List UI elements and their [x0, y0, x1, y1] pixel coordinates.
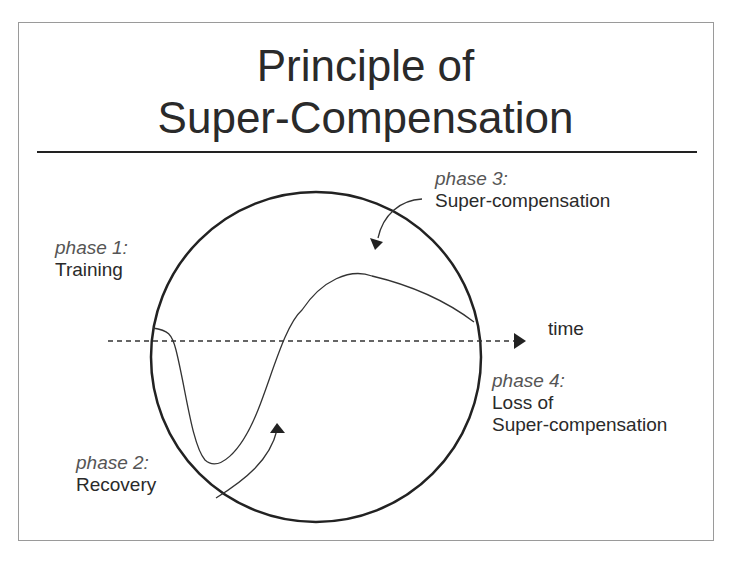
phase-2-name: Recovery: [76, 474, 156, 496]
time-label: time: [548, 318, 584, 340]
phase-2-arrow: [216, 430, 277, 498]
phase-1-name: Training: [55, 259, 128, 281]
performance-curve: [153, 274, 474, 464]
phase-4-name-line-1: Loss of: [492, 392, 667, 414]
phase-1-number: phase 1:: [55, 237, 128, 259]
phase-3-name: Super-compensation: [435, 190, 610, 212]
phase-1-label: phase 1: Training: [55, 237, 128, 281]
phase-4-number: phase 4:: [492, 370, 667, 392]
phase-2-arrowhead: [270, 423, 285, 433]
phase-2-number: phase 2:: [76, 452, 156, 474]
phase-3-arrow: [378, 199, 422, 238]
phase-2-label: phase 2: Recovery: [76, 452, 156, 496]
phase-4-name-line-2: Super-compensation: [492, 414, 667, 436]
cycle-circle: [151, 192, 481, 522]
phase-3-number: phase 3:: [435, 168, 610, 190]
time-axis-arrowhead: [514, 333, 526, 349]
phase-3-arrowhead: [370, 238, 383, 250]
phase-4-label: phase 4: Loss of Super-compensation: [492, 370, 667, 436]
phase-3-label: phase 3: Super-compensation: [435, 168, 610, 212]
